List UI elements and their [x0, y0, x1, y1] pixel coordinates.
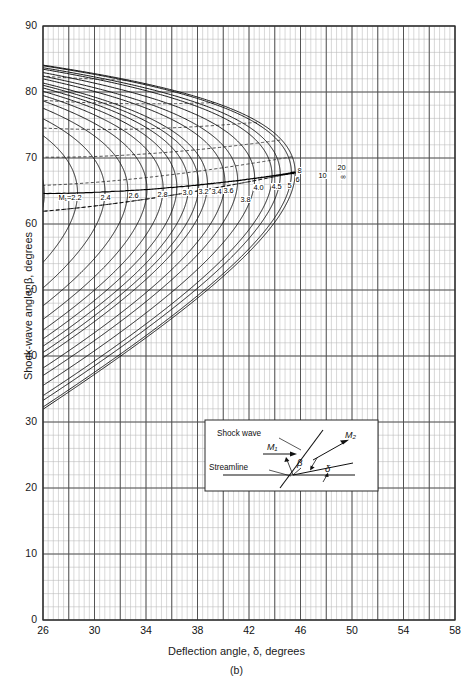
y-tick-label: 80	[10, 85, 37, 97]
mach-curve-label: 4.0	[253, 184, 264, 191]
figure-caption-text: (b)	[230, 664, 243, 676]
y-tick-label: 30	[10, 415, 37, 427]
mach-curve-label: 20	[337, 164, 346, 171]
x-tick-label: 42	[237, 624, 261, 636]
x-tick-label: 50	[340, 624, 364, 636]
x-tick-label: 34	[134, 624, 158, 636]
figure-caption: (b)	[0, 664, 473, 676]
x-axis-title-text: Deflection angle, δ, degrees	[168, 645, 305, 657]
mach-curve-label: M₁=2.2	[58, 194, 82, 201]
inset-beta-label: β	[296, 457, 303, 468]
y-axis-title-text: Shock-wave angle, β, degrees	[22, 232, 34, 380]
mach-curve-label: 4.5	[271, 183, 282, 190]
mach-curve-label: 3.2	[198, 188, 209, 195]
mach-curve-label: 3.0	[182, 189, 193, 196]
x-tick-label: 26	[31, 624, 55, 636]
y-tick-label: 90	[10, 19, 37, 31]
inset-diagram: Shock waveStreamlineM₁M₂βδ	[205, 420, 378, 491]
mach-curve-label: 6	[295, 176, 300, 183]
shock-chart-figure: Shock waveStreamlineM₁M₂βδ	[0, 0, 473, 678]
mach-curve-label: 2.4	[100, 194, 111, 201]
mach-curve-label: 2.8	[157, 191, 168, 198]
mach-curve-label: 3.6	[223, 187, 234, 194]
x-axis-title: Deflection angle, δ, degrees	[0, 645, 473, 657]
x-tick-label: 38	[186, 624, 210, 636]
x-tick-label: 58	[443, 624, 467, 636]
inset-shock-wave-label: Shock wave	[217, 429, 262, 438]
mach-curve-label: ∞	[340, 173, 346, 180]
inset-delta-label: δ	[325, 463, 331, 474]
mach-curve-label: 2.6	[128, 192, 139, 199]
inset-m1-label: M₁	[267, 442, 277, 452]
x-tick-label: 54	[392, 624, 416, 636]
y-axis-title: Shock-wave angle, β, degrees	[22, 206, 34, 406]
mach-curve-label: 10	[318, 172, 327, 179]
inset-m2-label: M₂	[345, 430, 356, 440]
mach-curve-label: 3.4	[211, 188, 222, 195]
x-tick-label: 30	[83, 624, 107, 636]
x-tick-label: 46	[289, 624, 313, 636]
inset-streamline-label: Streamline	[209, 463, 249, 472]
y-tick-label: 70	[10, 151, 37, 163]
mach-curve-label: 3.8	[240, 196, 251, 203]
mach-curve-label: 8	[297, 167, 302, 174]
y-tick-label: 20	[10, 481, 37, 493]
mach-curve-label: 5	[287, 182, 292, 189]
y-tick-label: 10	[10, 547, 37, 559]
